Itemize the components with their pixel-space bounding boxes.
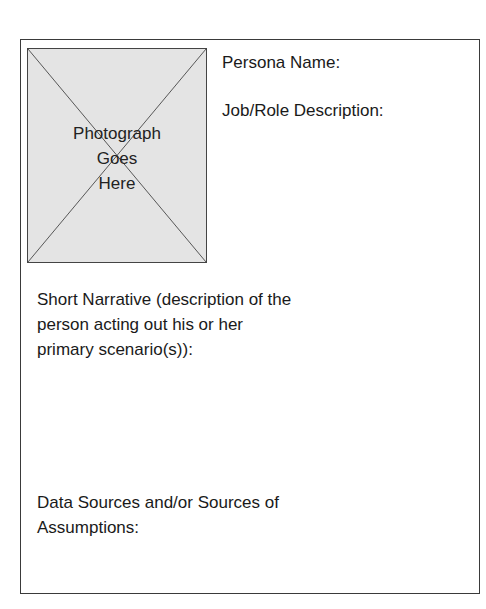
photo-label-line: Photograph bbox=[28, 121, 206, 146]
photo-label-line: Here bbox=[28, 171, 206, 196]
sources-line: Data Sources and/or Sources of bbox=[37, 490, 279, 515]
narrative-line: primary scenario(s)): bbox=[37, 337, 291, 362]
photo-placeholder: Photograph Goes Here bbox=[27, 48, 207, 263]
narrative-line: Short Narrative (description of the bbox=[37, 287, 291, 312]
sources-line: Assumptions: bbox=[37, 515, 279, 540]
job-role-label: Job/Role Description: bbox=[222, 98, 384, 123]
persona-name-label: Persona Name: bbox=[222, 50, 340, 75]
narrative-line: person acting out his or her bbox=[37, 312, 291, 337]
data-sources-label: Data Sources and/or Sources of Assumptio… bbox=[37, 490, 279, 540]
photo-placeholder-label: Photograph Goes Here bbox=[28, 121, 206, 196]
photo-label-line: Goes bbox=[28, 146, 206, 171]
short-narrative-label: Short Narrative (description of the pers… bbox=[37, 287, 291, 362]
